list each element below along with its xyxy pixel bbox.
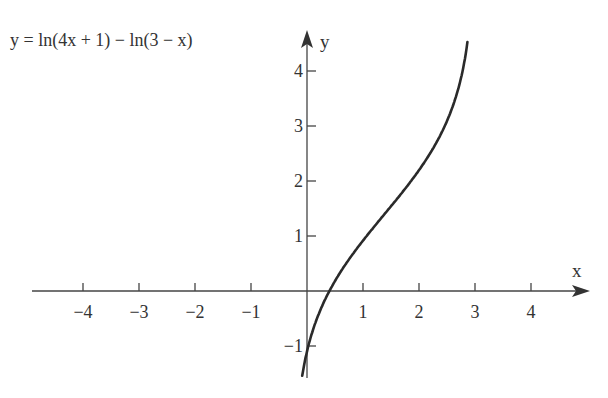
svg-text:2: 2 — [415, 302, 424, 322]
svg-text:−4: −4 — [73, 302, 92, 322]
svg-text:−2: −2 — [185, 302, 204, 322]
svg-text:3: 3 — [471, 302, 480, 322]
svg-text:4: 4 — [294, 61, 303, 81]
y-axis-label: y — [320, 31, 330, 52]
svg-text:1: 1 — [294, 226, 303, 246]
svg-text:−1: −1 — [284, 336, 303, 356]
svg-text:2: 2 — [294, 171, 303, 191]
axes — [32, 30, 590, 378]
svg-text:4: 4 — [527, 302, 536, 322]
ticks: −4−3−2−11234−11234 — [73, 61, 535, 356]
x-axis-label: x — [572, 260, 582, 281]
svg-text:−1: −1 — [241, 302, 260, 322]
svg-text:1: 1 — [359, 302, 368, 322]
function-plot: −4−3−2−11234−11234 x y — [0, 0, 608, 398]
svg-text:−3: −3 — [129, 302, 148, 322]
function-curve — [302, 42, 467, 376]
svg-text:3: 3 — [294, 116, 303, 136]
